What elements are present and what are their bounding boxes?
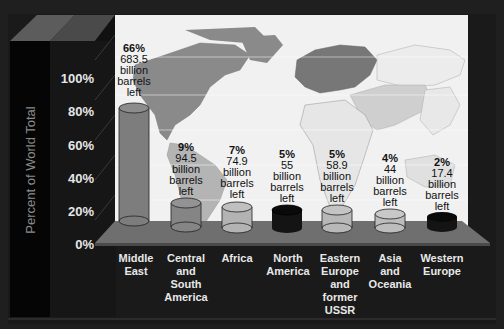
bar-africa (222, 202, 252, 233)
bar-central-south-america (171, 198, 201, 232)
bar-label-north-america: 5%55billionbarrelsleft (262, 149, 312, 204)
bar-eastern-europe-ussr (322, 205, 352, 233)
category-western-europe: WesternEurope (412, 252, 472, 278)
bar-label-middle-east: 66%683.5billionbarrelsleft (109, 43, 159, 98)
bar-western-europe (427, 212, 457, 232)
bar-middle-east (119, 103, 149, 226)
bar-label-western-europe: 2%17.4billionbarrelsleft (417, 157, 467, 212)
bar-north-america (272, 205, 302, 233)
bar-label-central-south-america: 9%94.5billionbarrelsleft (161, 142, 211, 197)
bar-asia-oceania (375, 209, 405, 233)
bar-label-africa: 7%74.9billionbarrelsleft (212, 145, 262, 200)
frame-bottom-edge (8, 318, 496, 320)
bar-label-eastern-europe-ussr: 5%58.9billionbarrelsleft (312, 149, 362, 204)
category-asia-oceania: AsiaandOceania (360, 252, 420, 291)
bar-label-asia-oceania: 4%44billionbarrelsleft (365, 153, 415, 208)
category-north-america: NorthAmerica (258, 252, 318, 278)
